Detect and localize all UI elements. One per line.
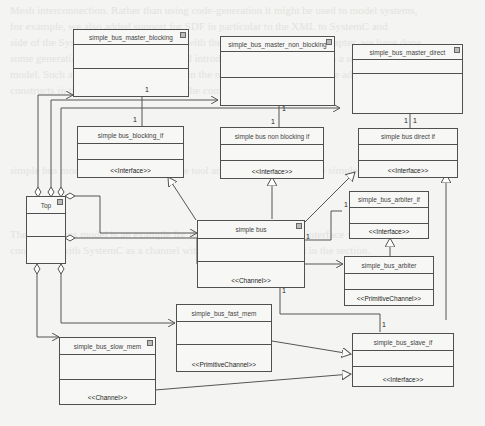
- class-name: simple_bus_master_blocking: [89, 34, 173, 41]
- attributes-compartment: [221, 145, 323, 161]
- class-simple-bus-slave-if[interactable]: simple_bus_slave_if <<Interface>>: [352, 333, 454, 387]
- class-name: simple bus: [235, 226, 266, 233]
- class-name: simple_bus_fast_mem: [191, 310, 256, 317]
- class-simple-bus-fast-mem[interactable]: simple_bus_fast_mem <<PrimitiveChannel>>: [176, 304, 272, 372]
- class-simple-bus-master-blocking[interactable]: simple_bus_master_blocking: [73, 29, 189, 97]
- class-simple-bus-master-non-blocking[interactable]: simple_bus_master_non_blocking: [220, 36, 335, 106]
- attributes-compartment: [345, 274, 433, 290]
- class-name: simple_bus_master_non_blocking: [228, 41, 326, 48]
- class-name: simple bus direct if: [381, 133, 435, 140]
- multiplicity-label: 1: [133, 116, 137, 123]
- attributes-compartment: [78, 144, 183, 160]
- class-simple-bus-non-blocking-if[interactable]: simple bus non blocking if <<Interface>>: [220, 127, 324, 179]
- class-simple-bus-blocking-if[interactable]: simple bus_blocking_if <<Interface>>: [77, 126, 184, 178]
- multiplicity-label: 1: [404, 117, 408, 124]
- operations-compartment: [27, 237, 65, 263]
- class-simple-bus-master-direct[interactable]: simple_bus_master_direct: [352, 44, 463, 114]
- multiplicity-label: 1: [145, 86, 149, 93]
- class-simple-bus-arbiter[interactable]: simple_bus_arbiter <<PrimitiveChannel>>: [344, 256, 434, 306]
- attributes-compartment: [177, 322, 271, 345]
- stereotype-label: <<Interface>>: [369, 228, 409, 235]
- class-name: simple_bus_arbiter_if: [358, 196, 420, 203]
- stereotype-label: <<Interface>>: [388, 167, 428, 174]
- stereotype-label: <<Channel>>: [88, 394, 127, 401]
- class-name: simple_bus_slow_mem: [74, 343, 142, 350]
- attributes-compartment: [198, 239, 304, 262]
- stereotype-label: <<Channel>>: [231, 277, 270, 284]
- stereotype-label: <<Interface>>: [110, 167, 150, 174]
- attributes-compartment: [27, 214, 65, 237]
- operations-compartment: [221, 78, 334, 105]
- class-name: simple_bus_slave_if: [374, 339, 433, 346]
- attributes-compartment: [353, 351, 453, 367]
- multiplicity-label: 1: [413, 117, 417, 124]
- operations-compartment: [353, 74, 462, 113]
- class-simple-bus[interactable]: simple bus <<Channel>>: [197, 220, 305, 288]
- class-simple-bus-direct-if[interactable]: simple bus direct if <<Interface>>: [358, 128, 458, 178]
- class-icon: [180, 32, 186, 38]
- class-simple-bus-slow-mem[interactable]: simple_bus_slow_mem <<Channel>>: [59, 337, 156, 405]
- class-name: simple_bus_arbiter: [362, 262, 417, 269]
- multiplicity-label: 1: [382, 321, 386, 328]
- attributes-compartment: [350, 208, 428, 224]
- class-icon: [147, 340, 153, 346]
- class-top[interactable]: Top: [26, 196, 66, 264]
- operations-compartment: [74, 69, 188, 96]
- attributes-compartment: [359, 145, 457, 161]
- attributes-compartment: [221, 52, 334, 78]
- stereotype-label: <<Interface>>: [383, 376, 423, 383]
- multiplicity-label: 1: [271, 118, 275, 125]
- attributes-compartment: [74, 45, 188, 69]
- class-icon: [296, 223, 302, 229]
- attributes-compartment: [60, 355, 155, 380]
- class-simple-bus-arbiter-if[interactable]: simple_bus_arbiter_if <<Interface>>: [349, 191, 429, 239]
- multiplicity-label: 1: [282, 105, 286, 112]
- class-name: Top: [41, 202, 51, 209]
- multiplicity-label: 1: [306, 233, 310, 240]
- class-name: simple bus non blocking if: [235, 133, 309, 140]
- attributes-compartment: [353, 60, 462, 74]
- class-name: simple_bus_master_direct: [370, 49, 446, 56]
- stereotype-label: <<PrimitiveChannel>>: [192, 361, 256, 368]
- class-icon: [326, 39, 332, 45]
- stereotype-label: <<Interface>>: [252, 168, 292, 175]
- stereotype-label: <<PrimitiveChannel>>: [357, 295, 421, 302]
- multiplicity-label: 1: [282, 287, 286, 294]
- class-icon: [57, 199, 63, 205]
- class-name: simple bus_blocking_if: [98, 132, 163, 139]
- multiplicity-label: 1: [344, 201, 348, 208]
- class-icon: [454, 47, 460, 53]
